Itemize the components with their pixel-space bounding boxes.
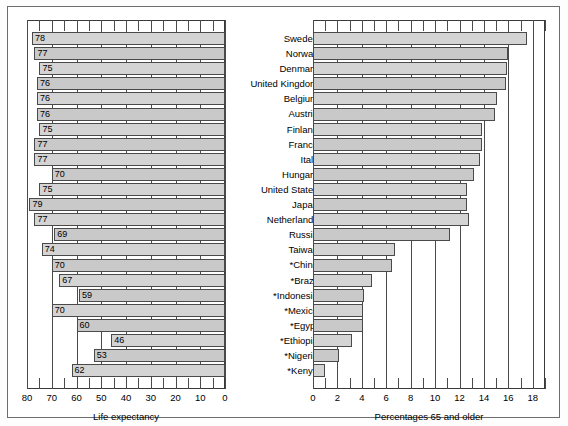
- tick-mark: [138, 20, 139, 31]
- country-label: Belgium: [232, 91, 318, 106]
- x-tick-label: 10: [423, 392, 447, 403]
- bar-life-expectancy: [34, 153, 225, 166]
- tick-mark: [411, 20, 412, 31]
- bar-value-label: 62: [75, 365, 85, 376]
- bar-percent-65-and-older: [313, 47, 508, 60]
- x-tick-label: 50: [89, 392, 113, 403]
- bar-life-expectancy: [77, 319, 226, 332]
- bar-percent-65-and-older: [313, 92, 497, 105]
- x-tick-label: 60: [65, 392, 89, 403]
- tick-mark: [77, 20, 78, 31]
- bar-life-expectancy: [32, 32, 225, 45]
- tick-mark: [126, 20, 127, 31]
- tick-mark: [151, 378, 152, 389]
- gridline: [508, 20, 509, 389]
- tick-mark: [545, 20, 546, 31]
- tick-mark: [313, 20, 314, 31]
- tick-mark: [163, 20, 164, 31]
- tick-mark: [151, 20, 152, 31]
- bar-value-label: 69: [57, 229, 67, 240]
- bar-percent-65-and-older: [313, 334, 352, 347]
- tick-mark: [138, 378, 139, 389]
- bar-value-label: 60: [80, 320, 90, 331]
- tick-mark: [447, 20, 448, 31]
- bar-percent-65-and-older: [313, 304, 363, 317]
- bar-value-label: 79: [32, 199, 42, 210]
- tick-mark: [398, 20, 399, 31]
- country-label: United Kingdom: [232, 76, 318, 91]
- bar-life-expectancy: [52, 259, 225, 272]
- tick-mark: [435, 20, 436, 31]
- bar-life-expectancy: [94, 349, 225, 362]
- tick-mark: [114, 378, 115, 389]
- tick-mark: [27, 378, 28, 389]
- tick-mark: [423, 378, 424, 389]
- bar-percent-65-and-older: [313, 62, 507, 75]
- bar-percent-65-and-older: [313, 228, 450, 241]
- country-label: Italy: [232, 152, 318, 167]
- tick-mark: [460, 378, 461, 389]
- tick-mark: [213, 378, 214, 389]
- country-label: *Indonesia: [232, 288, 318, 303]
- bar-percent-65-and-older: [313, 32, 527, 45]
- bar-value-label: 76: [40, 109, 50, 120]
- bar-value-label: 70: [55, 169, 65, 180]
- bar-percent-65-and-older: [313, 77, 506, 90]
- tick-mark: [350, 378, 351, 389]
- country-label: United States: [232, 182, 318, 197]
- tick-mark: [101, 378, 102, 389]
- x-tick-label: 70: [40, 392, 64, 403]
- tick-mark: [472, 20, 473, 31]
- x-tick-label: 0: [213, 392, 237, 403]
- bar-life-expectancy: [79, 289, 225, 302]
- tick-mark: [27, 20, 28, 31]
- tick-mark: [89, 20, 90, 31]
- tick-mark: [39, 378, 40, 389]
- country-label: *China: [232, 257, 318, 272]
- tick-mark: [386, 378, 387, 389]
- bar-life-expectancy: [34, 138, 225, 151]
- tick-mark: [496, 20, 497, 31]
- gridline: [533, 20, 534, 389]
- country-label: Norway: [232, 46, 318, 61]
- country-label: *Kenya: [232, 363, 318, 378]
- tick-mark: [521, 378, 522, 389]
- x-tick-label: 2: [325, 392, 349, 403]
- x-tick-label: 30: [139, 392, 163, 403]
- tick-mark: [200, 378, 201, 389]
- bar-value-label: 70: [55, 260, 65, 271]
- tick-mark: [64, 378, 65, 389]
- country-label-column: SwedenNorwayDenmarkUnited KingdomBelgium…: [232, 31, 318, 378]
- tick-mark: [313, 378, 314, 389]
- bar-percent-65-and-older: [313, 243, 395, 256]
- bar-life-expectancy: [37, 92, 225, 105]
- country-label: *Brazil: [232, 273, 318, 288]
- country-label: Sweden: [232, 31, 318, 46]
- bar-percent-65-and-older: [313, 138, 482, 151]
- bar-value-label: 76: [40, 93, 50, 104]
- x-tick-label: 10: [188, 392, 212, 403]
- bar-percent-65-and-older: [313, 274, 372, 287]
- bar-value-label: 53: [97, 350, 107, 361]
- tick-mark: [362, 20, 363, 31]
- tick-mark: [496, 378, 497, 389]
- tick-mark: [101, 20, 102, 31]
- tick-mark: [484, 378, 485, 389]
- bar-life-expectancy: [52, 304, 225, 317]
- x-tick-label: 14: [472, 392, 496, 403]
- bar-percent-65-and-older: [313, 364, 325, 377]
- bar-value-label: 70: [55, 305, 65, 316]
- tick-mark: [435, 378, 436, 389]
- tick-mark: [398, 378, 399, 389]
- right-axis-title: Percentages 65 and older: [313, 411, 545, 423]
- x-tick-label: 12: [448, 392, 472, 403]
- country-label: Austria: [232, 106, 318, 121]
- bar-value-label: 75: [42, 63, 52, 74]
- bar-life-expectancy: [37, 108, 225, 121]
- country-label: Finland: [232, 122, 318, 137]
- x-tick-label: 4: [350, 392, 374, 403]
- tick-mark: [447, 378, 448, 389]
- bar-value-label: 77: [37, 214, 47, 225]
- bar-value-label: 59: [82, 290, 92, 301]
- country-label: *Mexico: [232, 303, 318, 318]
